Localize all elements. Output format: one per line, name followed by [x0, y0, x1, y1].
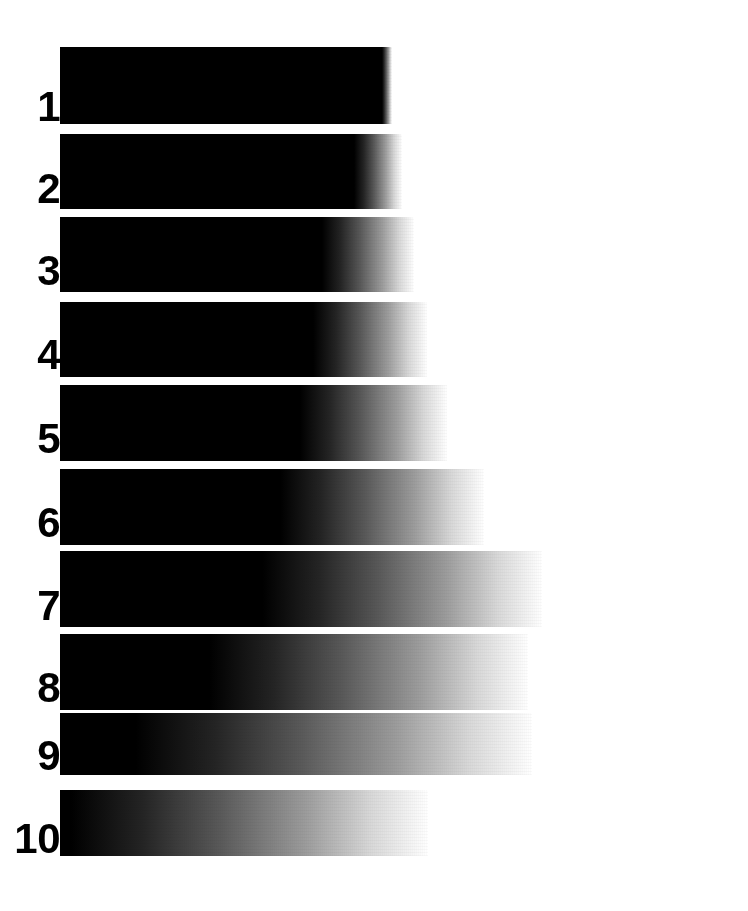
film-grain-overlay — [60, 790, 428, 856]
film-grain-overlay — [60, 302, 427, 377]
row-number-label: 7 — [14, 585, 60, 627]
gradient-row — [0, 713, 748, 775]
gradient-wedge-canvas: 12345678910 — [0, 0, 748, 911]
row-number-label: 8 — [14, 667, 60, 709]
gradient-bar — [60, 134, 402, 209]
film-grain-overlay — [60, 217, 414, 292]
row-number-label: 6 — [14, 502, 60, 544]
film-grain-overlay — [60, 134, 402, 209]
gradient-row — [0, 469, 748, 545]
gradient-row — [0, 551, 748, 627]
row-number-label: 9 — [14, 735, 60, 777]
row-number-label: 1 — [14, 86, 60, 128]
film-grain-overlay — [60, 634, 528, 710]
row-number-label: 5 — [14, 418, 60, 460]
row-number-label: 3 — [14, 250, 60, 292]
gradient-bar — [60, 385, 447, 461]
film-grain-overlay — [60, 47, 392, 124]
gradient-row — [0, 47, 748, 124]
gradient-bar — [60, 790, 428, 856]
film-grain-overlay — [60, 713, 532, 775]
row-number-label: 10 — [9, 818, 60, 860]
gradient-bar — [60, 713, 532, 775]
film-grain-overlay — [60, 551, 542, 627]
gradient-bar — [60, 47, 392, 124]
row-number-label: 4 — [14, 334, 60, 376]
gradient-bar — [60, 634, 528, 710]
gradient-row — [0, 302, 748, 377]
gradient-row — [0, 134, 748, 209]
gradient-bar — [60, 217, 414, 292]
gradient-bar — [60, 469, 484, 545]
gradient-row — [0, 790, 748, 856]
gradient-row — [0, 217, 748, 292]
film-grain-overlay — [60, 385, 447, 461]
row-number-label: 2 — [14, 168, 60, 210]
gradient-row — [0, 385, 748, 461]
gradient-row — [0, 634, 748, 710]
film-grain-overlay — [60, 469, 484, 545]
gradient-bar — [60, 551, 542, 627]
gradient-bar — [60, 302, 427, 377]
